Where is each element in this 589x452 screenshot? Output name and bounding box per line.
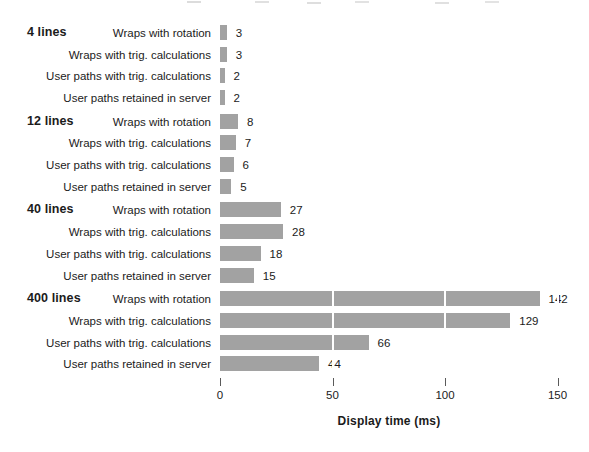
bar [220, 157, 234, 172]
bar [220, 202, 281, 217]
cropped-text-remnant [187, 1, 201, 3]
value-label: 2 [234, 90, 240, 105]
axis-tick-label: 0 [202, 389, 238, 401]
category-label: User paths with trig. calculations [36, 68, 211, 83]
value-label: 27 [290, 202, 303, 217]
bar [220, 135, 236, 150]
axis-tick-label: 100 [427, 389, 463, 401]
value-label: 129 [519, 313, 538, 328]
value-label: 66 [378, 335, 391, 350]
bar [220, 25, 227, 40]
category-label: Wraps with rotation [36, 291, 211, 306]
axis-tick [445, 378, 446, 386]
category-label: Wraps with trig. calculations [36, 47, 211, 62]
bar [220, 291, 540, 306]
category-label: User paths with trig. calculations [36, 157, 211, 172]
category-label: Wraps with trig. calculations [36, 135, 211, 150]
value-label: 15 [263, 268, 276, 283]
value-label: 3 [236, 25, 242, 40]
value-label: 18 [270, 246, 283, 261]
category-label: Wraps with rotation [36, 202, 211, 217]
category-label: Wraps with rotation [36, 114, 211, 129]
grouped-bar-chart-figure: 4 linesWraps with rotation3Wraps with tr… [0, 0, 589, 452]
bar [220, 313, 510, 328]
bar [220, 224, 283, 239]
category-label: Wraps with trig. calculations [36, 224, 211, 239]
axis-tick-label: 150 [540, 389, 576, 401]
value-label: 7 [245, 135, 251, 150]
value-label: 5 [240, 179, 246, 194]
category-label: User paths retained in server [36, 179, 211, 194]
category-label: Wraps with rotation [36, 25, 211, 40]
category-label: User paths with trig. calculations [36, 335, 211, 350]
bar [220, 246, 261, 261]
category-label: User paths with trig. calculations [36, 246, 211, 261]
bar [220, 47, 227, 62]
bar [220, 90, 225, 105]
value-label: 28 [292, 224, 305, 239]
value-label: 44 [328, 356, 341, 371]
category-label: User paths retained in server [36, 268, 211, 283]
axis-tick [333, 378, 334, 386]
axis-tick [220, 378, 221, 386]
category-label: User paths retained in server [36, 356, 211, 371]
category-label: User paths retained in server [36, 90, 211, 105]
gridline [444, 23, 446, 373]
gridline [332, 23, 334, 373]
bar [220, 114, 238, 129]
bar [220, 356, 319, 371]
x-axis-title: Display time (ms) [289, 414, 489, 428]
value-label: 6 [243, 157, 249, 172]
category-label: Wraps with trig. calculations [36, 313, 211, 328]
bar [220, 268, 254, 283]
value-label: 3 [236, 47, 242, 62]
gridline [557, 23, 559, 373]
value-label: 8 [247, 114, 253, 129]
axis-tick [558, 378, 559, 386]
bar [220, 68, 225, 83]
value-label: 2 [234, 68, 240, 83]
bar [220, 179, 231, 194]
bar [220, 335, 369, 350]
axis-tick-label: 50 [315, 389, 351, 401]
